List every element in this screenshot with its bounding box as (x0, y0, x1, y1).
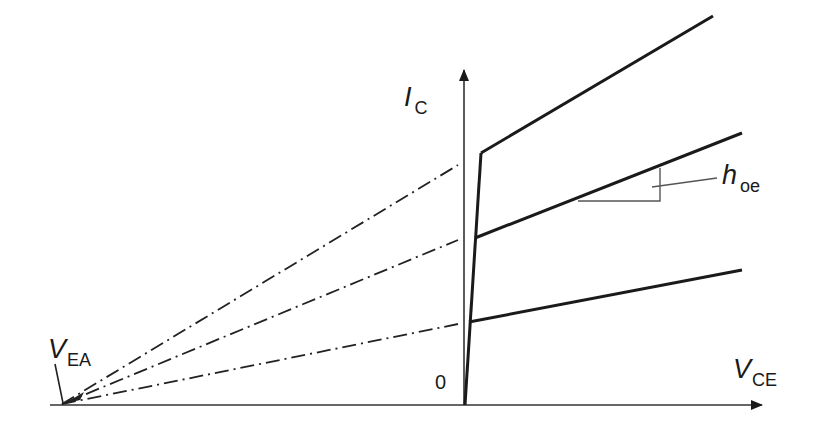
curve-low-ib (469, 270, 742, 322)
active-region-curves (469, 16, 742, 322)
hoe-leader-line (652, 178, 717, 187)
vea-leader-line (55, 364, 63, 403)
early-voltage-label: VEA (48, 336, 90, 363)
saturation-knee-line (465, 153, 481, 405)
origin-label: 0 (435, 372, 446, 392)
hoe-label: hoe (722, 162, 757, 189)
characteristics-diagram (0, 0, 820, 432)
curve-mid-ib (475, 133, 742, 238)
y-axis-label: IC (404, 84, 425, 111)
x-axis-label: VCE (733, 356, 776, 383)
early-extrapolation-lines (62, 165, 458, 404)
curve-high-ib (481, 16, 713, 153)
slope-triangle (578, 168, 717, 201)
